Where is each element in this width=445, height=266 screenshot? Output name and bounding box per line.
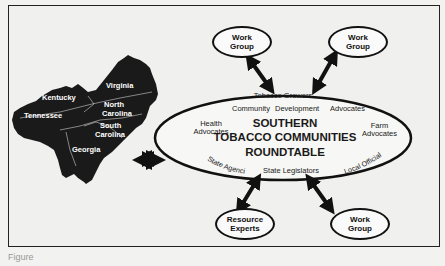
node-text: Work — [230, 33, 254, 42]
tobacco-growers-label: Tobacco Growers — [238, 92, 328, 100]
farm-advocates-label: Farm Advocates — [357, 122, 402, 139]
state-label-tennessee: Tennessee — [24, 112, 62, 120]
figure-caption: Figure — [8, 252, 34, 262]
state-label-north: North — [104, 101, 124, 109]
work-group-top-right[interactable]: WorkGroup — [328, 26, 388, 58]
advocates-label: Advocates — [330, 105, 365, 113]
state-label-south: South — [100, 122, 121, 130]
node-text: Resource — [227, 215, 263, 224]
resource-experts-node[interactable]: ResourceExperts — [215, 208, 275, 240]
node-text: Experts — [227, 224, 263, 233]
state-label-kentucky: Kentucky — [42, 94, 76, 102]
roundtable-title: SOUTHERN TOBACCO COMMUNITIES ROUNDTABLE — [210, 116, 360, 159]
state-label-georgia: Georgia — [72, 146, 100, 154]
community-label: Community — [232, 105, 270, 113]
state-label-south-carolina: Carolina — [95, 131, 125, 139]
title-line-3: ROUNDTABLE — [210, 145, 360, 159]
work-group-top-left[interactable]: WorkGroup — [212, 26, 272, 58]
node-text: Group — [348, 224, 372, 233]
title-line-1: SOUTHERN — [210, 116, 360, 130]
development-label: Development — [275, 105, 319, 113]
work-group-bottom-right[interactable]: WorkGroup — [330, 208, 390, 240]
node-text: Work — [346, 33, 370, 42]
state-legislators-label: State Legislators — [256, 167, 326, 175]
title-line-2: TOBACCO COMMUNITIES — [210, 130, 360, 144]
farm-advocates-text: Advocates — [357, 130, 402, 138]
node-text: Group — [346, 42, 370, 51]
node-text: Work — [348, 215, 372, 224]
state-label-virginia: Virginia — [106, 82, 133, 90]
state-label-north-carolina: Carolina — [102, 110, 132, 118]
node-text: Group — [230, 42, 254, 51]
